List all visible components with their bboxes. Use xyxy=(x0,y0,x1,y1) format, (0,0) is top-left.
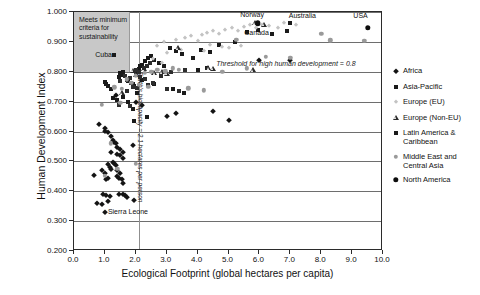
data-point xyxy=(226,46,231,51)
data-point xyxy=(124,194,129,199)
legend-marker-diamond-icon xyxy=(392,66,402,76)
data-point xyxy=(151,81,155,85)
y-tick-label: 0.200 xyxy=(33,246,67,255)
data-point xyxy=(125,89,129,93)
data-point xyxy=(365,25,370,30)
y-tick-label: 0.500 xyxy=(33,156,67,165)
data-point xyxy=(208,50,212,54)
sustainability-region-label-line: sustainability xyxy=(79,33,127,41)
x-tick-label: 1.0 xyxy=(89,255,119,264)
marker-glyph xyxy=(394,131,398,135)
data-point xyxy=(319,31,323,35)
legend-item[interactable]: Middle East and Central Asia xyxy=(392,152,480,170)
data-point xyxy=(159,74,163,78)
data-point xyxy=(220,44,225,49)
y-tick-label: 0.400 xyxy=(33,186,67,195)
data-point xyxy=(145,115,149,119)
x-tick-label: 6.0 xyxy=(243,255,273,264)
data-point xyxy=(111,96,115,100)
legend-label: Europe (Non-EU) xyxy=(402,113,461,122)
sustainability-region-label-line: Meets minimum xyxy=(79,16,127,24)
data-point xyxy=(263,55,267,59)
data-point xyxy=(100,102,104,106)
marker-glyph xyxy=(394,154,398,158)
legend-marker-diamond-light-icon xyxy=(392,97,402,107)
data-point xyxy=(201,49,206,54)
marker-glyph xyxy=(393,177,398,182)
legend-item[interactable]: Africa xyxy=(392,66,480,76)
data-point xyxy=(121,155,126,160)
legend-marker-square-icon xyxy=(392,128,402,138)
point-label: Australia xyxy=(289,12,316,19)
data-point xyxy=(282,21,287,26)
legend-marker-circle-icon xyxy=(392,152,402,162)
x-tick-label: 2.0 xyxy=(120,255,150,264)
data-point xyxy=(223,28,228,33)
data-point xyxy=(175,45,181,50)
legend-item[interactable]: Europe (EU) xyxy=(392,97,480,107)
data-point xyxy=(226,118,231,123)
legend-label: Asia-Pacific xyxy=(402,82,442,91)
x-tick-mark xyxy=(104,250,105,254)
legend-item[interactable]: Europe (Non-EU) xyxy=(392,113,480,123)
marker-glyph xyxy=(394,100,399,105)
data-point xyxy=(109,150,114,155)
legend-item[interactable]: Latin America & Caribbean xyxy=(392,128,480,146)
data-point xyxy=(288,21,292,25)
gridline xyxy=(74,161,381,162)
data-point xyxy=(191,56,195,60)
x-tick-label: 3.0 xyxy=(151,255,181,264)
data-point xyxy=(276,26,281,31)
gridline xyxy=(74,221,381,222)
data-point xyxy=(109,141,113,145)
data-point xyxy=(135,86,139,90)
sustainability-region-label: Meets minimumcriteria forsustainability xyxy=(79,16,127,41)
x-tick-mark xyxy=(351,250,352,254)
data-point xyxy=(211,109,216,114)
legend-item[interactable]: North America xyxy=(392,175,480,185)
x-tick-label: 0.0 xyxy=(58,255,88,264)
data-point xyxy=(109,166,114,171)
y-tick-label: 1.000 xyxy=(33,7,67,16)
data-point xyxy=(208,42,213,47)
legend-marker-circle-filled-icon xyxy=(392,175,402,185)
x-tick-mark xyxy=(228,250,229,254)
hdi-threshold-label: Threshold for high human development = 0… xyxy=(216,60,356,67)
data-point xyxy=(121,181,126,186)
point-label: Sierra Leone xyxy=(108,208,148,215)
data-point xyxy=(165,87,169,91)
data-point xyxy=(135,91,139,95)
data-point xyxy=(130,142,135,147)
x-tick-mark xyxy=(258,250,259,254)
gridline xyxy=(74,132,381,133)
sustainability-region-label-line: criteria for xyxy=(79,24,127,32)
data-point xyxy=(245,66,249,70)
legend-item[interactable]: Asia-Pacific xyxy=(392,82,480,92)
x-tick-mark xyxy=(382,250,383,254)
data-point xyxy=(180,52,184,56)
data-point xyxy=(186,86,190,90)
x-tick-mark xyxy=(135,250,136,254)
data-point xyxy=(118,100,122,104)
data-point xyxy=(164,113,169,118)
plot-area: Meets minimumcriteria forsustainability … xyxy=(73,11,382,250)
data-point xyxy=(211,29,216,34)
legend-label: Africa xyxy=(402,66,422,75)
data-point xyxy=(132,119,136,123)
y-tick-label: 0.900 xyxy=(33,36,67,45)
chart-legend: AfricaAsia-PacificEurope (EU)Europe (Non… xyxy=(392,66,480,191)
marker-glyph xyxy=(394,85,398,89)
data-point xyxy=(173,110,178,115)
x-axis-label: Ecological Footprint (global hectares pe… xyxy=(73,268,382,279)
data-point xyxy=(177,89,181,93)
data-point xyxy=(121,95,125,99)
point-label: Cuba xyxy=(95,51,112,58)
x-tick-mark xyxy=(166,250,167,254)
data-point xyxy=(220,70,224,74)
data-point xyxy=(148,61,152,65)
data-point xyxy=(210,66,216,71)
data-point xyxy=(118,79,122,83)
data-point xyxy=(195,39,200,44)
point-label: Norway xyxy=(240,11,264,18)
data-point xyxy=(92,172,97,177)
